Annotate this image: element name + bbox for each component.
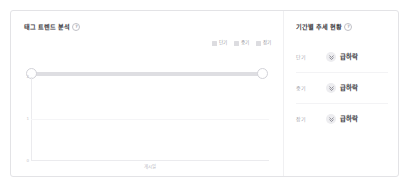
- x-axis-label: 게시일: [31, 164, 269, 170]
- list-item[interactable]: 중기 급하락: [296, 73, 388, 104]
- analytics-card: 태그 트렌드 분석 ? 단기 중기 장기: [10, 10, 399, 177]
- y-tick-label-top: 2: [26, 75, 29, 79]
- list-item[interactable]: 단기 급하락: [296, 42, 388, 73]
- legend-item-0[interactable]: 단기: [212, 40, 227, 46]
- tag-trend-header: 태그 트렌드 분석 ?: [24, 22, 271, 32]
- chart-x-axis: [31, 160, 269, 161]
- period-trend-title: 기간별 추세 현황: [296, 22, 341, 32]
- status-badge: 급하락: [340, 115, 358, 124]
- double-chevron-down-icon: [326, 83, 336, 93]
- legend-item-2[interactable]: 장기: [256, 40, 271, 46]
- y-tick-label-bottom: 0: [26, 159, 29, 163]
- period-trend-panel: 기간별 추세 현황 ? 단기 급하락: [283, 11, 398, 176]
- slider-track[interactable]: [31, 72, 263, 75]
- list-item[interactable]: 장기 급하락: [296, 104, 388, 134]
- tag-trend-panel: 태그 트렌드 분석 ? 단기 중기 장기: [11, 11, 283, 176]
- chart-legend: 단기 중기 장기: [212, 40, 271, 46]
- help-circle-icon[interactable]: ?: [344, 23, 352, 31]
- legend-label-0: 단기: [219, 40, 227, 46]
- trend-chart-plot[interactable]: 2 1 0 게시일: [31, 77, 269, 161]
- help-circle-icon[interactable]: ?: [72, 23, 80, 31]
- trend-period-label: 단기: [296, 53, 326, 61]
- period-trend-header: 기간별 추세 현황 ?: [296, 22, 388, 32]
- status-badge: 급하락: [340, 84, 358, 93]
- chart-gridline: [31, 119, 269, 120]
- trend-period-label: 중기: [296, 84, 326, 92]
- period-trend-list: 단기 급하락 중기: [296, 42, 388, 134]
- trend-period-label: 장기: [296, 115, 326, 123]
- page-title: 태그 트렌드 분석: [24, 22, 69, 32]
- trend-status: 급하락: [326, 114, 358, 124]
- legend-swatch-icon: [212, 41, 217, 46]
- status-badge: 급하락: [340, 53, 358, 62]
- trend-status: 급하락: [326, 83, 358, 93]
- legend-swatch-icon: [256, 41, 261, 46]
- legend-label-2: 장기: [263, 40, 271, 46]
- legend-swatch-icon: [234, 41, 239, 46]
- trend-status: 급하락: [326, 52, 358, 62]
- double-chevron-down-icon: [326, 52, 336, 62]
- y-tick-label-mid: 1: [26, 117, 29, 121]
- double-chevron-down-icon: [326, 114, 336, 124]
- screen-root: 태그 트렌드 분석 ? 단기 중기 장기: [0, 0, 409, 187]
- legend-label-1: 중기: [241, 40, 249, 46]
- legend-item-1[interactable]: 중기: [234, 40, 249, 46]
